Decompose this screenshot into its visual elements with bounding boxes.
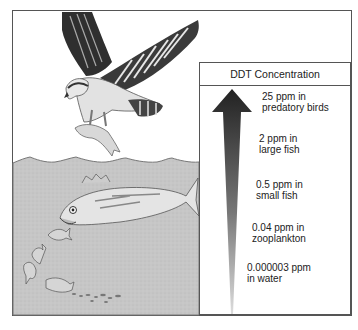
- zooplankton-dot: [86, 294, 91, 296]
- zooplankton-dot: [94, 296, 98, 298]
- zooplankton-dot: [104, 301, 108, 303]
- zooplankton-dot: [79, 295, 83, 297]
- level-predatory-birds: 25 ppm in predatory birds: [262, 91, 329, 113]
- zooplankton-dot: [115, 295, 121, 297]
- level-large-fish: 2 ppm in large fish: [259, 133, 300, 155]
- biomagnification-diagram: Concentrati: [0, 0, 358, 330]
- level-small-fish: 0.5 ppm in small fish: [256, 179, 303, 201]
- level-water: 0.000003 ppm in water: [247, 262, 311, 284]
- zooplankton-dot: [100, 294, 106, 296]
- arrow-shape: [212, 89, 252, 314]
- zooplankton-dot: [72, 293, 76, 295]
- level-zooplankton: 0.04 ppm in zooplankton: [252, 222, 306, 244]
- zooplankton-dot: [108, 297, 113, 299]
- ddt-concentration-panel: DDT Concentration 25 ppm in predatory bi…: [199, 62, 351, 315]
- zooplankton-dot: [90, 300, 94, 302]
- panel-title: DDT Concentration: [200, 63, 350, 86]
